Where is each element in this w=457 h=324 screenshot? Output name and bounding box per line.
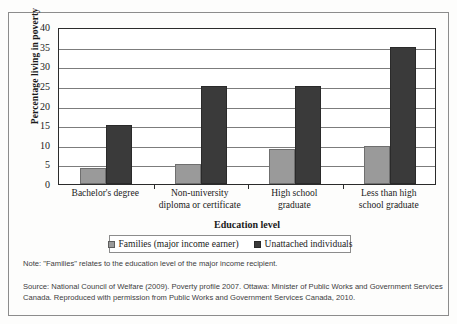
x-category-label-1: Non-universitydiploma or certificate: [153, 188, 248, 211]
bar-unattached-2: [295, 86, 321, 184]
plot-area: [58, 28, 436, 185]
bar-unattached-0: [106, 125, 132, 184]
bar-unattached-1: [201, 86, 227, 184]
y-tick-40: 40: [10, 23, 50, 33]
bar-families-2: [269, 149, 295, 184]
legend-label-families: Families (major income earner): [119, 239, 239, 249]
x-category-label-0: Bachelor's degree: [58, 188, 153, 200]
y-tick-30: 30: [10, 62, 50, 72]
chart-area: Percentage living in poverty 05101520253…: [9, 13, 450, 256]
legend-label-unattached: Unattached individuals: [265, 239, 353, 249]
chart-legend: Families (major income earner) Unattache…: [109, 235, 351, 253]
y-tick-0: 0: [10, 180, 50, 190]
x-category-label-2: High schoolgraduate: [247, 188, 342, 211]
figure-source: Source: National Council of Welfare (200…: [23, 281, 443, 303]
bar-unattached-3: [390, 47, 416, 184]
x-axis-category-labels: Bachelor's degreeNon-universitydiploma o…: [58, 188, 436, 218]
y-tick-10: 10: [10, 141, 50, 151]
bar-series-container: [59, 29, 435, 184]
bar-families-1: [175, 164, 201, 184]
y-axis-tick-labels: 0510152025303540: [9, 28, 54, 185]
y-tick-15: 15: [10, 121, 50, 131]
figure-frame: Percentage living in poverty 05101520253…: [8, 12, 449, 316]
y-tick-5: 5: [10, 160, 50, 170]
bar-families-3: [364, 146, 390, 184]
bar-families-0: [80, 168, 106, 184]
figure-root: Percentage living in poverty 05101520253…: [0, 0, 457, 324]
x-axis-title: Education level: [58, 219, 436, 230]
y-tick-35: 35: [10, 43, 50, 53]
y-tick-25: 25: [10, 82, 50, 92]
figure-note: Note: "Families" relates to the educatio…: [23, 259, 438, 269]
legend-swatch-unattached-icon: [254, 241, 261, 248]
y-tick-20: 20: [10, 102, 50, 112]
legend-item-unattached: Unattached individuals: [254, 239, 353, 249]
x-category-label-3: Less than highschool graduate: [342, 188, 437, 211]
legend-swatch-families-icon: [108, 241, 115, 248]
legend-item-families: Families (major income earner): [108, 239, 239, 249]
